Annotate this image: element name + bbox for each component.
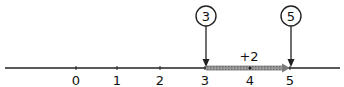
start-marker: 3 — [196, 6, 216, 67]
tick-label-0: 0 — [72, 73, 80, 87]
tick-label-2: 2 — [156, 73, 164, 87]
end-marker: 5 — [281, 6, 301, 67]
jump-label: +2 — [239, 49, 258, 64]
jump-arrow — [206, 64, 290, 73]
tick-label-5: 5 — [286, 73, 294, 87]
number-line-diagram: 0 1 2 3 4 5 +2 3 5 — [0, 0, 344, 87]
tick-label-1: 1 — [113, 73, 121, 87]
start-marker-label: 3 — [202, 9, 210, 24]
tick-label-3: 3 — [201, 73, 209, 87]
tick-label-4: 4 — [246, 73, 254, 87]
end-marker-label: 5 — [287, 9, 295, 24]
